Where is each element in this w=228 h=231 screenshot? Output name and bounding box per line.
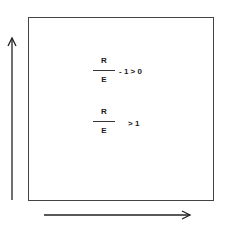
diagram-frame — [28, 17, 214, 201]
numerator: R — [93, 56, 115, 66]
fraction-bar — [93, 70, 115, 71]
up-arrow-icon — [8, 38, 16, 200]
inequality-2-tail: > 1 — [128, 119, 139, 128]
fraction-r-over-e-1: R E — [93, 56, 115, 85]
inequality-1-tail: - 1 > 0 — [119, 67, 142, 76]
numerator: R — [93, 107, 115, 117]
denominator: E — [93, 75, 115, 85]
fraction-bar — [93, 121, 115, 122]
fraction-r-over-e-2: R E — [93, 107, 115, 136]
right-arrow-icon — [44, 211, 190, 219]
denominator: E — [93, 126, 115, 136]
